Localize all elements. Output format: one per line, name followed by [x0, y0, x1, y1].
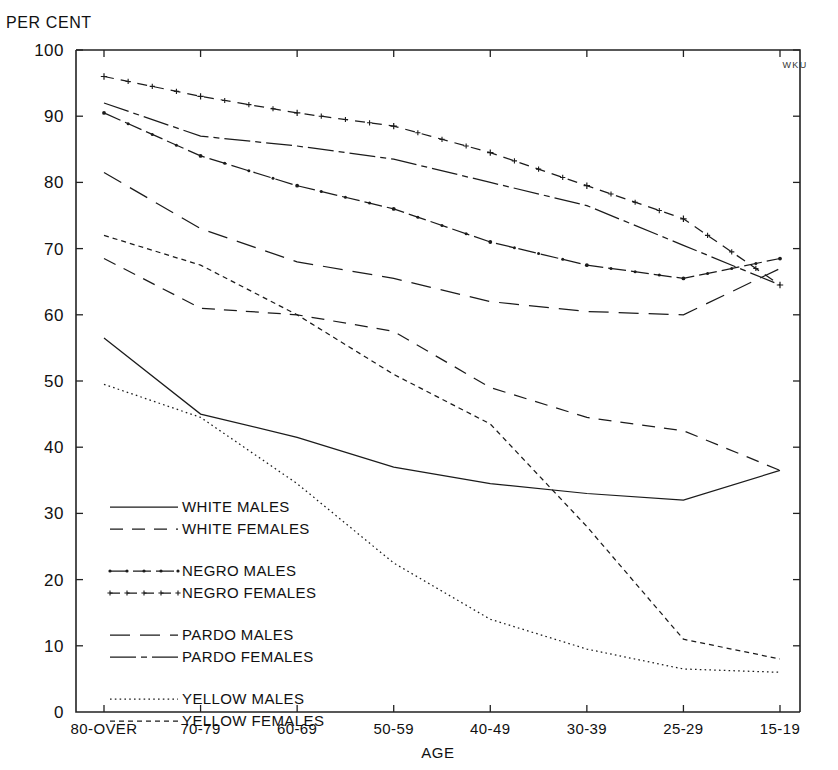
legend-label: NEGRO MALES: [182, 562, 296, 579]
series-marker: [295, 184, 299, 188]
series-marker: [777, 282, 783, 288]
legend-label: NEGRO FEMALES: [182, 584, 316, 601]
series-marker: [344, 196, 347, 199]
series-marker: [608, 191, 613, 196]
series-marker: [151, 133, 154, 136]
series-marker: [633, 200, 638, 205]
series-marker: [561, 258, 564, 261]
series-marker: [368, 202, 371, 205]
series-marker: [487, 149, 493, 155]
legend-marker: [125, 569, 128, 572]
series-marker: [343, 117, 348, 122]
series-marker: [513, 246, 516, 249]
percent-by-age-line-chart: PER CENTWKU010203040506070809010080-OVER…: [0, 0, 838, 770]
x-axis-label: 40-49: [470, 720, 510, 737]
series-line-negro-females: [104, 77, 780, 286]
x-axis-label: 15-19: [760, 720, 800, 737]
legend-label: WHITE FEMALES: [182, 520, 310, 537]
axis-lines: [76, 50, 800, 712]
y-axis-label: 80: [44, 173, 64, 192]
legend-marker: [176, 569, 179, 572]
series-marker: [584, 183, 590, 189]
series-marker: [294, 110, 300, 116]
legend-label: PARDO MALES: [182, 626, 294, 643]
series-marker: [585, 263, 589, 267]
series-marker: [101, 73, 107, 79]
y-axis-label: 0: [54, 703, 64, 722]
series-marker: [175, 144, 178, 147]
series-marker: [634, 270, 637, 273]
series-marker: [706, 272, 709, 275]
chart-container: PER CENTWKU010203040506070809010080-OVER…: [0, 0, 838, 770]
series-marker: [199, 154, 203, 158]
legend-label: PARDO FEMALES: [182, 648, 314, 665]
series-marker: [439, 137, 444, 142]
percent-unit-label: PER CENT: [6, 14, 92, 31]
legend-marker: [108, 569, 111, 572]
legend-label: WHITE MALES: [182, 498, 290, 515]
series-marker: [223, 162, 226, 165]
series-marker: [150, 84, 155, 89]
legend-marker: [141, 590, 146, 595]
series-marker: [658, 274, 661, 277]
x-axis-title: AGE: [421, 744, 454, 761]
y-axis-label: 40: [44, 438, 64, 457]
y-axis-label: 20: [44, 571, 64, 590]
series-marker: [320, 190, 323, 193]
series-marker: [415, 130, 420, 135]
series-marker: [246, 102, 251, 107]
series-marker: [488, 240, 492, 244]
series-marker: [512, 158, 517, 163]
legend-marker: [124, 590, 129, 595]
wku-corner-mark: WKU: [782, 60, 807, 70]
series-marker: [560, 175, 565, 180]
legend-label: YELLOW MALES: [182, 690, 304, 707]
series-line-white-males: [104, 338, 780, 500]
series-marker: [537, 252, 540, 255]
legend-marker: [175, 590, 180, 595]
y-axis-label: 30: [44, 504, 64, 523]
plot-frame: [76, 50, 800, 712]
series-marker: [272, 177, 275, 180]
series-marker: [102, 111, 106, 115]
series-marker: [270, 106, 275, 111]
series-marker: [392, 207, 396, 211]
series-marker: [247, 169, 250, 172]
series-marker: [730, 267, 733, 270]
series-marker: [197, 93, 203, 99]
legend-marker: [142, 569, 145, 572]
series-marker: [682, 276, 686, 280]
series-marker: [610, 267, 613, 270]
series-marker: [536, 167, 541, 172]
series-marker: [174, 89, 179, 94]
y-axis-label: 70: [44, 240, 64, 259]
series-marker: [657, 208, 662, 213]
series-marker: [367, 120, 372, 125]
series-marker: [126, 79, 131, 84]
x-axis-label: 30-39: [567, 720, 607, 737]
series-marker: [319, 114, 324, 119]
legend-label: YELLOW FEMALES: [182, 712, 324, 729]
y-axis-label: 50: [44, 372, 64, 391]
x-axis-label: 50-59: [374, 720, 414, 737]
series-marker: [222, 98, 227, 103]
series-marker: [754, 262, 757, 265]
series-line-pardo-females: [104, 103, 780, 285]
series-marker: [391, 123, 397, 129]
legend-marker: [158, 590, 163, 595]
legend-marker: [159, 569, 162, 572]
y-axis-label: 90: [44, 107, 64, 126]
series-marker: [465, 232, 468, 235]
series-marker: [416, 216, 419, 219]
x-axis-label: 25-29: [663, 720, 703, 737]
series-marker: [778, 257, 782, 261]
legend-marker: [107, 590, 112, 595]
series-marker: [464, 143, 469, 148]
series-marker: [441, 224, 444, 227]
x-axis-label: 80-OVER: [71, 720, 138, 737]
y-axis-label: 100: [34, 41, 64, 60]
y-axis-label: 10: [44, 637, 64, 656]
series-marker: [127, 122, 130, 125]
y-axis-label: 60: [44, 306, 64, 325]
